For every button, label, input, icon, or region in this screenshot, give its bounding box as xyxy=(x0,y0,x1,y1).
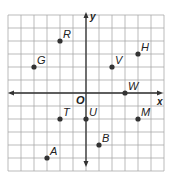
point-dot xyxy=(44,155,49,160)
x-axis-left-arrow-icon xyxy=(8,91,14,96)
point-label: R xyxy=(63,28,71,40)
y-axis-label: y xyxy=(89,11,96,22)
point-dot xyxy=(135,51,140,56)
point-label: T xyxy=(63,106,71,118)
y-axis-bottom-arrow-icon xyxy=(84,161,89,167)
point-dot xyxy=(96,142,101,147)
x-axis-right-arrow-icon xyxy=(157,91,163,96)
point-dot xyxy=(83,116,88,121)
point-label: B xyxy=(102,132,109,144)
axes: x y O xyxy=(8,11,163,167)
x-axis-label: x xyxy=(156,96,163,107)
point-label: V xyxy=(115,54,124,66)
point-label: U xyxy=(89,106,97,118)
point-dot xyxy=(122,90,127,95)
point-dot xyxy=(109,64,114,69)
point-dot xyxy=(135,116,140,121)
point-label: W xyxy=(128,80,140,92)
point-dot xyxy=(57,116,62,121)
points: RGHVWTUMBA xyxy=(31,28,151,161)
point-label: H xyxy=(141,41,149,53)
point-label: G xyxy=(37,54,46,66)
point-dot xyxy=(57,38,62,43)
coordinate-plane: x y O RGHVWTUMBA xyxy=(0,0,170,179)
point-dot xyxy=(31,64,36,69)
point-label: A xyxy=(49,145,57,157)
point-label: M xyxy=(141,106,151,118)
origin-label: O xyxy=(76,94,85,106)
